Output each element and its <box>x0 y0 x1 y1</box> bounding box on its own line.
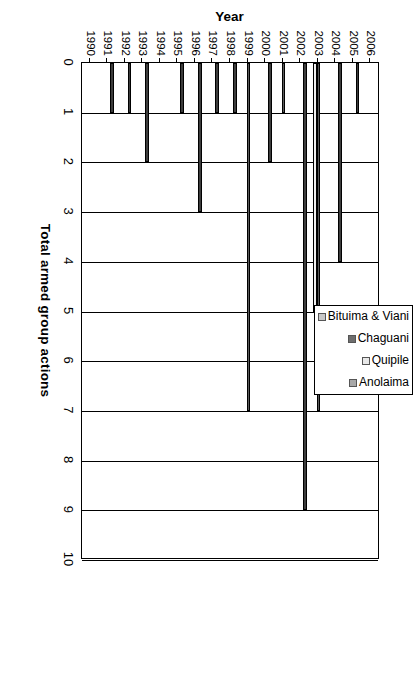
bar-chart-figure: 012345678910 Total armed group actions 1… <box>0 0 419 680</box>
value-tick-label: 2 <box>61 146 75 176</box>
bar <box>128 63 132 113</box>
category-tick <box>229 58 230 62</box>
value-tick-label: 0 <box>61 47 75 77</box>
value-tick-label: 8 <box>61 445 75 475</box>
bar <box>247 63 251 411</box>
category-tick <box>106 58 107 62</box>
category-tick-label: 2005 <box>347 30 360 56</box>
bar <box>282 63 286 113</box>
legend-label: Bituima & Viani <box>328 310 409 323</box>
gridline <box>82 461 378 462</box>
gridline <box>82 162 378 163</box>
bar <box>110 63 114 113</box>
category-tick-label: 1998 <box>224 30 237 56</box>
category-tick <box>299 58 300 62</box>
bar <box>338 63 342 262</box>
value-tick-label: 5 <box>61 296 75 326</box>
category-tick <box>89 58 90 62</box>
value-tick-label: 1 <box>61 97 75 127</box>
category-tick-label: 1999 <box>242 30 255 56</box>
legend-swatch-icon <box>348 335 356 343</box>
category-tick <box>141 58 142 62</box>
gridline <box>82 510 378 511</box>
category-tick <box>124 58 125 62</box>
category-tick <box>211 58 212 62</box>
value-tick-label: 9 <box>61 494 75 524</box>
bar <box>313 63 317 312</box>
value-tick-label: 3 <box>61 196 75 226</box>
category-tick-label: 1997 <box>206 30 219 56</box>
chart-figure-rotator: 012345678910 Total armed group actions 1… <box>0 0 419 680</box>
value-tick-label: 6 <box>61 345 75 375</box>
bar <box>145 63 149 162</box>
value-tick-label: 10 <box>61 544 75 574</box>
bar <box>268 63 272 162</box>
category-tick-label: 1995 <box>171 30 184 56</box>
category-tick <box>176 58 177 62</box>
category-tick-label: 1994 <box>154 30 167 56</box>
chart-legend: Bituima & VianiChaguaniQuipileAnolaima <box>314 305 413 395</box>
category-tick <box>247 58 248 62</box>
category-tick-label: 1992 <box>119 30 132 56</box>
category-tick-label: 1990 <box>84 30 97 56</box>
category-tick-label: 2000 <box>259 30 272 56</box>
category-tick <box>159 58 160 62</box>
bar <box>198 63 202 212</box>
gridline <box>82 560 378 561</box>
bar <box>356 63 360 113</box>
bar <box>303 63 307 510</box>
gridline <box>82 113 378 114</box>
legend-item[interactable]: Quipile <box>362 354 409 367</box>
category-tick-label: 2004 <box>329 30 342 56</box>
value-tick-label: 4 <box>61 246 75 276</box>
legend-label: Chaguani <box>358 332 409 345</box>
category-tick <box>369 58 370 62</box>
value-tick-label: 7 <box>61 395 75 425</box>
legend-swatch-icon <box>362 357 370 365</box>
legend-item[interactable]: Bituima & Viani <box>318 310 409 323</box>
category-tick <box>264 58 265 62</box>
bar <box>233 63 237 113</box>
category-tick-label: 1991 <box>101 30 114 56</box>
category-axis-title: Year <box>81 8 379 24</box>
bar <box>215 63 219 113</box>
category-tick <box>282 58 283 62</box>
category-tick-label: 2006 <box>364 30 377 56</box>
legend-label: Quipile <box>372 354 409 367</box>
category-axis-title-text: Year <box>216 9 245 24</box>
category-tick <box>317 58 318 62</box>
legend-swatch-icon <box>318 313 326 321</box>
bar <box>180 63 184 113</box>
gridline <box>82 212 378 213</box>
category-tick-label: 2001 <box>277 30 290 56</box>
category-tick <box>194 58 195 62</box>
category-tick-label: 2003 <box>312 30 325 56</box>
category-tick-label: 2002 <box>294 30 307 56</box>
category-tick <box>352 58 353 62</box>
legend-label: Anolaima <box>359 376 409 389</box>
legend-swatch-icon <box>349 379 357 387</box>
gridline <box>82 411 378 412</box>
gridline <box>82 262 378 263</box>
legend-item[interactable]: Chaguani <box>348 332 409 345</box>
legend-item[interactable]: Anolaima <box>349 376 409 389</box>
category-tick-label: 1993 <box>136 30 149 56</box>
category-tick <box>334 58 335 62</box>
category-tick-label: 1996 <box>189 30 202 56</box>
value-axis-title: Total armed group actions <box>38 62 53 559</box>
